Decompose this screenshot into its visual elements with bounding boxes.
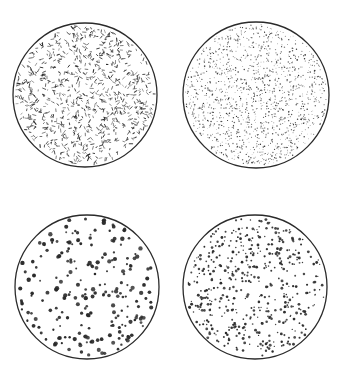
circle-outline bbox=[183, 215, 327, 359]
stipple-figure bbox=[0, 0, 339, 373]
circle-panel-large-dots bbox=[15, 215, 159, 359]
circle-panel-fine-stipple bbox=[183, 22, 329, 168]
circle-panel-dashes bbox=[13, 23, 157, 167]
figure-canvas bbox=[0, 0, 339, 373]
circle-panel-small-dots bbox=[183, 215, 327, 359]
